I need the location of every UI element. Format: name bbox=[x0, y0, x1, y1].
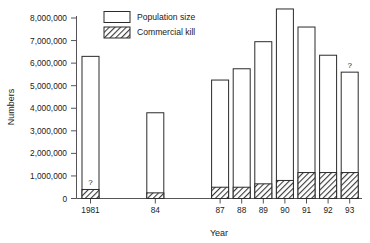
x-tick-label-90: 90 bbox=[280, 205, 290, 215]
bar-chart: 01,000,0002,000,0003,000,0004,000,0005,0… bbox=[0, 0, 370, 243]
annotation-question-mark-1981: ? bbox=[88, 178, 93, 187]
bar-commercial-kill-92 bbox=[320, 173, 337, 199]
y-tick-label: 3,000,000 bbox=[30, 126, 67, 136]
y-axis-title: Numbers bbox=[6, 88, 16, 125]
bar-population-size-87 bbox=[212, 80, 229, 198]
x-tick-label-93: 93 bbox=[345, 205, 355, 215]
bar-population-size-89 bbox=[255, 42, 272, 199]
bar-commercial-kill-1981 bbox=[82, 189, 99, 198]
y-tick-label: 1,000,000 bbox=[30, 171, 67, 181]
x-tick-label-89: 89 bbox=[259, 205, 269, 215]
x-tick-label-1981: 1981 bbox=[81, 205, 100, 215]
bar-population-size-1981 bbox=[82, 56, 99, 198]
legend-swatch-population-size bbox=[104, 12, 130, 23]
x-axis-title: Year bbox=[210, 228, 228, 238]
bar-commercial-kill-90 bbox=[276, 180, 293, 198]
x-tick-label-87: 87 bbox=[215, 205, 225, 215]
y-tick-label: 0 bbox=[62, 194, 67, 204]
bar-commercial-kill-91 bbox=[298, 173, 315, 199]
bar-commercial-kill-88 bbox=[233, 187, 250, 198]
x-tick-label-92: 92 bbox=[323, 205, 333, 215]
chart-container: 01,000,0002,000,0003,000,0004,000,0005,0… bbox=[0, 0, 370, 243]
bar-population-size-90 bbox=[276, 9, 293, 199]
x-tick-label-88: 88 bbox=[237, 205, 247, 215]
bar-population-size-88 bbox=[233, 69, 250, 199]
y-tick-label: 5,000,000 bbox=[30, 81, 67, 91]
bar-commercial-kill-89 bbox=[255, 184, 272, 199]
x-tick-label-91: 91 bbox=[302, 205, 312, 215]
y-tick-label: 6,000,000 bbox=[30, 58, 67, 68]
legend-swatch-commercial-kill bbox=[104, 27, 130, 38]
annotation-question-mark-93: ? bbox=[347, 61, 352, 70]
bar-commercial-kill-93 bbox=[341, 173, 358, 199]
legend-label-population-size: Population size bbox=[137, 12, 196, 22]
bar-population-size-84 bbox=[147, 113, 164, 199]
y-tick-label: 2,000,000 bbox=[30, 148, 67, 158]
y-tick-label: 8,000,000 bbox=[30, 13, 67, 23]
x-tick-label-84: 84 bbox=[151, 205, 161, 215]
legend-label-commercial-kill: Commercial kill bbox=[137, 27, 195, 37]
y-tick-label: 4,000,000 bbox=[30, 103, 67, 113]
y-tick-label: 7,000,000 bbox=[30, 36, 67, 46]
bar-commercial-kill-84 bbox=[147, 193, 164, 199]
bar-commercial-kill-87 bbox=[212, 187, 229, 198]
